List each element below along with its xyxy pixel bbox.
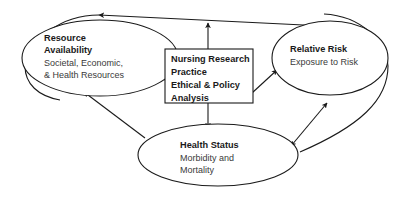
nursing-box-line-3: Ethical & Policy <box>171 80 241 90</box>
resource-availability-title-line2: Availability <box>44 45 93 55</box>
health-status-subtitle-line1: Morbidity and <box>180 153 234 163</box>
framework-diagram: Resource Availability Societal, Economic… <box>0 0 409 200</box>
resource-availability-subtitle-line1: Societal, Economic, <box>44 58 123 68</box>
health-status-title: Health Status <box>180 140 239 150</box>
node-nursing-research-box[interactable]: Nursing Research Practice Ethical & Poli… <box>165 49 253 103</box>
resource-availability-subtitle-line2: & Health Resources <box>44 70 125 80</box>
node-resource-availability[interactable]: Resource Availability Societal, Economic… <box>22 20 178 96</box>
connector-box-to-risk <box>252 70 277 93</box>
diagram-canvas: Resource Availability Societal, Economic… <box>0 0 409 200</box>
connector-health-to-resource <box>84 92 145 138</box>
nursing-box-line-1: Nursing Research <box>171 54 250 64</box>
connector-risk-health-bidirectional <box>291 103 327 146</box>
relative-risk-subtitle: Exposure to Risk <box>290 57 359 67</box>
node-relative-risk[interactable]: Relative Risk Exposure to Risk <box>272 21 388 95</box>
node-health-status[interactable]: Health Status Morbidity and Mortality <box>138 124 298 186</box>
relative-risk-title: Relative Risk <box>290 44 348 54</box>
nursing-box-line-4: Analysis <box>171 93 209 103</box>
health-status-subtitle-line2: Mortality <box>180 165 215 175</box>
resource-availability-title-line1: Resource <box>44 33 86 43</box>
nursing-box-line-2: Practice <box>171 67 207 77</box>
